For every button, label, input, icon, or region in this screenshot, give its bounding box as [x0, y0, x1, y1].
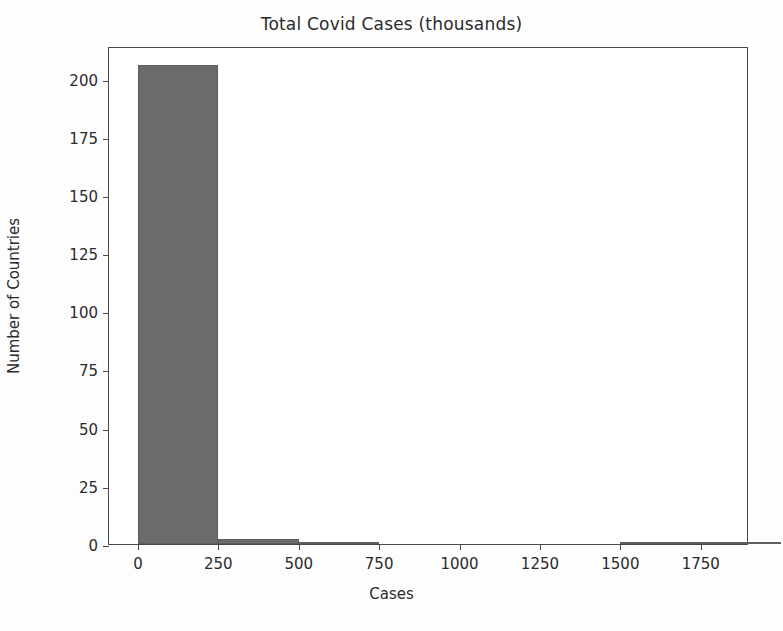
x-tick-mark [460, 544, 461, 550]
y-tick-label: 75 [79, 362, 98, 380]
y-tick-label: 150 [69, 188, 98, 206]
y-tick-label: 100 [69, 304, 98, 322]
histogram-bars [109, 48, 747, 544]
x-tick-label: 1500 [601, 555, 639, 573]
x-tick-mark [701, 544, 702, 550]
x-tick-mark [620, 544, 621, 550]
y-tick-mark [103, 371, 109, 372]
histogram-bar [701, 542, 781, 544]
y-tick-mark [103, 197, 109, 198]
x-tick-label: 250 [204, 555, 233, 573]
x-tick-label: 1750 [682, 555, 720, 573]
x-tick-mark [299, 544, 300, 550]
chart-title: Total Covid Cases (thousands) [0, 14, 783, 34]
histogram-bar [218, 539, 298, 544]
plot-area: 0255075100125150175200 02505007501000125… [108, 47, 748, 545]
x-tick-label: 750 [365, 555, 394, 573]
x-tick-mark [138, 544, 139, 550]
histogram-bar [620, 542, 700, 544]
y-tick-label: 200 [69, 72, 98, 90]
y-tick-label: 125 [69, 246, 98, 264]
y-tick-label: 0 [88, 537, 98, 555]
y-tick-mark [103, 546, 109, 547]
histogram-bar [138, 65, 218, 544]
y-axis-label: Number of Countries [5, 218, 23, 374]
y-tick-mark [103, 430, 109, 431]
x-tick-label: 0 [133, 555, 143, 573]
x-tick-label: 1000 [440, 555, 478, 573]
chart-screenshot: Total Covid Cases (thousands) 0255075100… [0, 0, 783, 631]
y-tick-mark [103, 139, 109, 140]
x-tick-label: 500 [284, 555, 313, 573]
x-tick-mark [218, 544, 219, 550]
x-tick-mark [540, 544, 541, 550]
y-tick-mark [103, 313, 109, 314]
y-tick-mark [103, 81, 109, 82]
x-tick-mark [379, 544, 380, 550]
y-tick-mark [103, 488, 109, 489]
y-tick-label: 175 [69, 130, 98, 148]
x-tick-label: 1250 [521, 555, 559, 573]
y-tick-label: 50 [79, 421, 98, 439]
x-axis-label: Cases [0, 585, 783, 603]
y-tick-mark [103, 255, 109, 256]
histogram-bar [299, 542, 379, 544]
y-tick-label: 25 [79, 479, 98, 497]
